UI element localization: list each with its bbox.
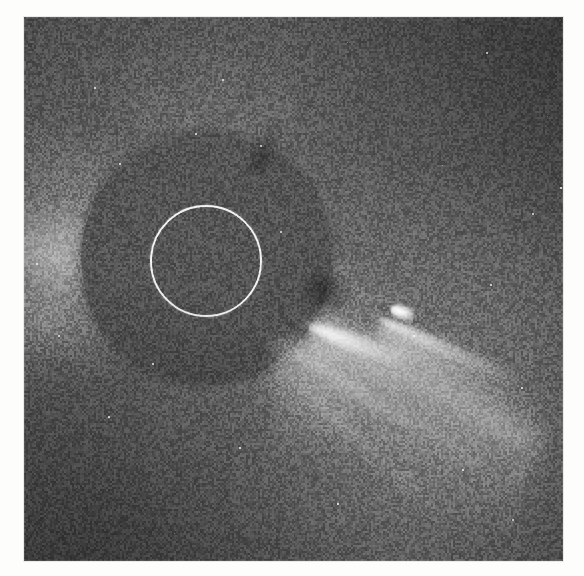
- image-alt-text: Coronagraph image of the solar corona wi…: [0, 0, 1, 1]
- comet: [24, 17, 563, 561]
- coronagraph-photo: [24, 17, 563, 561]
- page-root: Coronagraph image of the solar corona wi…: [0, 0, 584, 576]
